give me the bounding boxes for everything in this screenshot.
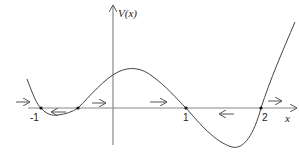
equilibrium-point-neg-half: [76, 106, 79, 109]
y-axis-label: V(x): [118, 7, 137, 20]
phase-diagram: V(x) x -1 1 2: [0, 0, 299, 157]
potential-curve: [27, 22, 295, 147]
x-axis-label: x: [284, 112, 290, 124]
tick-label-1: 1: [183, 112, 189, 123]
tick-label-2: 2: [262, 112, 268, 123]
tick-label-neg1: -1: [30, 112, 39, 123]
equilibrium-point-2: [259, 106, 262, 109]
equilibrium-point-1: [184, 106, 187, 109]
equilibrium-point-neg1: [39, 106, 42, 109]
